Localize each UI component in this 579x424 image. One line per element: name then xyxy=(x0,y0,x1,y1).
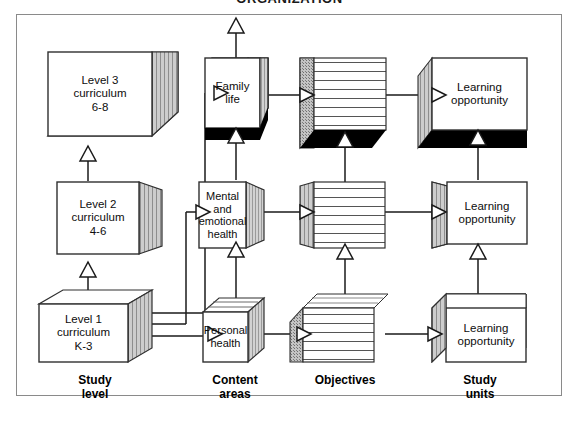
caption-content-areas: Content areas xyxy=(180,373,290,401)
box-level2 xyxy=(57,182,162,254)
caption-study-level: Study level xyxy=(40,373,150,401)
box-learning-opportunity-bottom xyxy=(432,294,526,362)
caption-objectives: Objectives xyxy=(290,373,400,387)
box-level3 xyxy=(48,52,178,136)
box-level1 xyxy=(39,290,152,362)
arrow-level2-to-level3 xyxy=(80,146,96,161)
arrow-level1-to-level2 xyxy=(80,262,96,277)
box-objectives-middle xyxy=(300,182,385,248)
box-learning-opportunity-middle xyxy=(432,182,527,248)
arrow-units-bot-to-mid xyxy=(470,244,486,259)
arrow-up-top xyxy=(228,18,244,33)
box-learning-opportunity-top xyxy=(418,58,527,148)
diagram-vector-layer xyxy=(0,0,579,424)
box-objectives-bottom xyxy=(290,294,388,362)
box-mental-emotional-health xyxy=(199,182,264,248)
diagram-canvas: ORGANIZATION xyxy=(0,0,579,424)
caption-study-units: Study units xyxy=(425,373,535,401)
